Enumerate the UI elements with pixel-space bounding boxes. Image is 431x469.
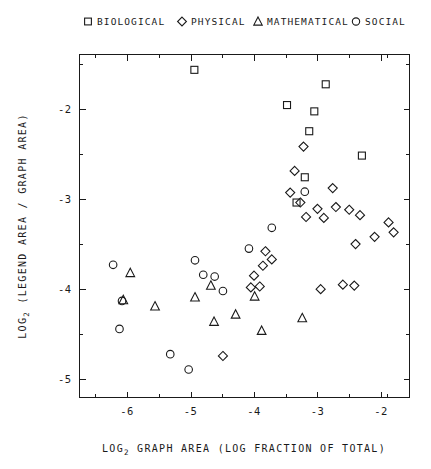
data-point-social [219,287,227,295]
data-point-biological [358,152,365,159]
data-point-social [185,366,193,374]
plot-canvas: BIOLOGICALPHYSICALMATHEMATICALSOCIAL -6-… [0,0,431,469]
y-axis-label: LOG2 (LEGEND AREA / GRAPH AREA) [17,113,31,338]
data-point-physical [290,166,299,175]
data-point-mathematical [231,310,240,318]
data-point-physical [286,188,295,197]
data-point-physical [328,184,337,193]
axis-ticks [80,55,410,398]
data-point-physical [351,240,360,249]
data-point-mathematical [250,292,259,300]
data-point-physical [316,285,325,294]
data-point-biological [311,108,318,115]
data-point-physical [246,283,255,292]
y-tick-label: -3 [58,193,71,205]
x-tick-label: -2 [374,405,387,417]
data-point-social [245,245,253,253]
legend-marker-diamond [178,17,187,26]
plot-frame [80,55,410,398]
data-point-social [199,271,207,279]
scatter-plot-figure: BIOLOGICALPHYSICALMATHEMATICALSOCIAL -6-… [0,0,431,469]
data-point-biological [301,174,308,181]
y-tick-label: -4 [58,283,71,295]
chart-legend: BIOLOGICALPHYSICALMATHEMATICALSOCIAL [85,16,406,27]
data-point-physical [370,232,379,241]
data-markers [109,66,398,373]
data-point-biological [322,81,329,88]
axis-tick-labels: -6-5-4-3-2-2-3-4-5 [58,103,388,417]
data-point-social [191,257,199,265]
data-point-physical [384,218,393,227]
data-point-physical [255,282,264,291]
legend-marker-circle [352,18,359,25]
data-point-physical [313,204,322,213]
data-point-social [268,224,276,232]
data-point-social [116,325,124,333]
x-tick-label: -4 [247,405,260,417]
data-point-physical [267,255,276,264]
data-point-mathematical [151,302,160,310]
data-point-social [301,188,309,196]
data-point-physical [355,211,364,220]
data-point-mathematical [210,317,219,325]
data-point-physical [331,202,340,211]
data-point-biological [191,66,198,73]
data-point-physical [261,247,270,256]
data-point-physical [389,228,398,237]
data-point-physical [345,205,354,214]
x-tick-label: -3 [311,405,324,417]
data-point-mathematical [207,281,216,289]
data-point-biological [306,128,313,135]
data-point-mathematical [257,326,266,334]
data-point-physical [302,212,311,221]
data-point-mathematical [126,268,135,276]
legend-marker-triangle [254,17,262,25]
x-tick-label: -6 [120,405,133,417]
legend-marker-square [85,18,92,25]
legend-label-social: SOCIAL [365,16,406,27]
data-point-physical [249,271,258,280]
data-point-social [109,261,117,269]
data-point-physical [338,280,347,289]
data-point-physical [258,261,267,270]
data-point-biological [284,102,291,109]
data-point-physical [319,213,328,222]
y-tick-label: -2 [58,103,71,115]
data-point-mathematical [191,293,200,301]
y-tick-label: -5 [58,373,71,385]
data-point-physical [299,142,308,151]
data-point-mathematical [298,313,307,321]
data-point-social [166,350,174,358]
data-point-social [211,273,219,281]
data-point-physical [218,351,227,360]
data-point-physical [350,281,359,290]
data-point-mathematical [119,295,128,303]
x-tick-label: -5 [184,405,197,417]
legend-label-biological: BIOLOGICAL [97,16,165,27]
legend-label-physical: PHYSICAL [191,16,246,27]
x-axis-label: LOG2 GRAPH AREA (LOG FRACTION OF TOTAL) [102,443,386,457]
legend-label-mathematical: MATHEMATICAL [267,16,349,27]
